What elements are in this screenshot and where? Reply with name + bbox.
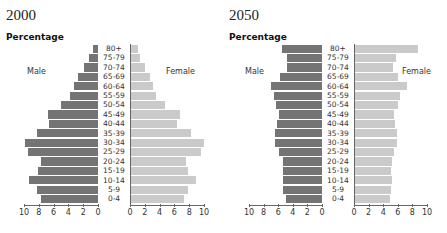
age-group-label: 10-14	[322, 176, 354, 185]
pyramid-2050: 2050 Percentage Male Female 80+75-7970-7…	[224, 0, 447, 233]
x-tick-label: 8	[32, 208, 46, 217]
female-bar	[130, 167, 188, 175]
female-bar	[354, 139, 397, 147]
x-tick-label: 4	[376, 208, 390, 217]
x-tick-label: 10	[420, 208, 434, 217]
x-tick-label: 0	[315, 208, 329, 217]
age-group-label: 80+	[98, 44, 130, 53]
female-bar	[354, 129, 397, 137]
male-bar	[274, 92, 322, 100]
male-bar	[38, 167, 98, 175]
x-tick-label: 6	[271, 208, 285, 217]
male-bar	[283, 157, 322, 165]
x-tick-label: 2	[76, 208, 90, 217]
x-tick-label: 2	[138, 208, 152, 217]
x-tick	[293, 204, 294, 207]
female-bar	[130, 129, 191, 137]
age-group-label: 0-4	[98, 194, 130, 203]
x-tick	[322, 204, 323, 207]
female-bar	[354, 110, 394, 118]
x-tick-label: 8	[182, 208, 196, 217]
male-bar	[279, 110, 322, 118]
male-bar	[282, 45, 322, 53]
female-bar	[354, 120, 395, 128]
female-x-axis	[130, 205, 204, 206]
x-tick-label: 4	[61, 208, 75, 217]
x-tick	[307, 204, 308, 207]
age-group-label: 75-79	[98, 53, 130, 62]
female-bar	[354, 63, 393, 71]
female-bar	[354, 186, 391, 194]
age-group-label: 65-69	[322, 72, 354, 81]
male-bar	[61, 101, 98, 109]
x-tick	[427, 204, 428, 207]
x-tick	[369, 204, 370, 207]
female-bar	[354, 167, 391, 175]
x-tick-label: 10	[197, 208, 211, 217]
female-bar	[354, 92, 400, 100]
x-tick	[249, 204, 250, 207]
x-tick	[160, 204, 161, 207]
male-bar	[89, 54, 98, 62]
male-bar	[276, 101, 322, 109]
male-bar	[275, 129, 322, 137]
female-bar	[130, 186, 188, 194]
x-tick	[354, 204, 355, 207]
age-group-label: 15-19	[98, 166, 130, 175]
male-bar	[277, 120, 322, 128]
x-tick-label: 2	[362, 208, 376, 217]
age-group-label: 45-49	[98, 110, 130, 119]
female-bar	[130, 139, 204, 147]
x-tick	[24, 204, 25, 207]
x-tick	[83, 204, 84, 207]
x-tick-label: 8	[405, 208, 419, 217]
age-group-label: 75-79	[322, 53, 354, 62]
male-bar	[283, 167, 322, 175]
female-bar	[354, 73, 398, 81]
male-x-axis	[249, 205, 322, 206]
age-group-label: 5-9	[98, 185, 130, 194]
age-group-label: 5-9	[322, 185, 354, 194]
female-bar	[130, 195, 184, 203]
male-bar	[287, 63, 322, 71]
y-axis-label: Percentage	[229, 32, 287, 42]
female-bar	[130, 45, 138, 53]
x-tick-label: 4	[153, 208, 167, 217]
x-tick-label: 0	[91, 208, 105, 217]
female-bar	[354, 82, 407, 90]
female-bar	[354, 176, 392, 184]
age-group-label: 35-39	[98, 129, 130, 138]
female-bar	[130, 157, 186, 165]
chart-title: 2000	[6, 7, 36, 24]
age-group-label: 55-59	[322, 91, 354, 100]
female-bar	[130, 82, 153, 90]
age-group-label: 60-64	[98, 82, 130, 91]
x-tick-label: 6	[167, 208, 181, 217]
x-tick	[174, 204, 175, 207]
male-bar	[37, 129, 98, 137]
age-group-label: 15-19	[322, 166, 354, 175]
age-group-label: 40-44	[322, 119, 354, 128]
male-bar	[29, 176, 98, 184]
x-tick	[39, 204, 40, 207]
female-x-axis	[354, 205, 427, 206]
x-tick	[189, 204, 190, 207]
male-bar	[275, 139, 322, 147]
x-tick	[412, 204, 413, 207]
male-bar	[41, 157, 98, 165]
age-group-label: 35-39	[322, 129, 354, 138]
y-axis-label: Percentage	[6, 32, 64, 42]
age-group-label: 45-49	[322, 110, 354, 119]
male-bar	[70, 92, 98, 100]
male-bar	[287, 54, 322, 62]
female-bar	[130, 110, 180, 118]
x-tick-label: 2	[300, 208, 314, 217]
age-group-label: 70-74	[98, 63, 130, 72]
male-x-axis	[24, 205, 98, 206]
age-group-label: 50-54	[98, 100, 130, 109]
x-tick	[98, 204, 99, 207]
male-bar	[74, 82, 98, 90]
age-group-label: 65-69	[98, 72, 130, 81]
age-group-label: 70-74	[322, 63, 354, 72]
female-bar	[354, 148, 394, 156]
